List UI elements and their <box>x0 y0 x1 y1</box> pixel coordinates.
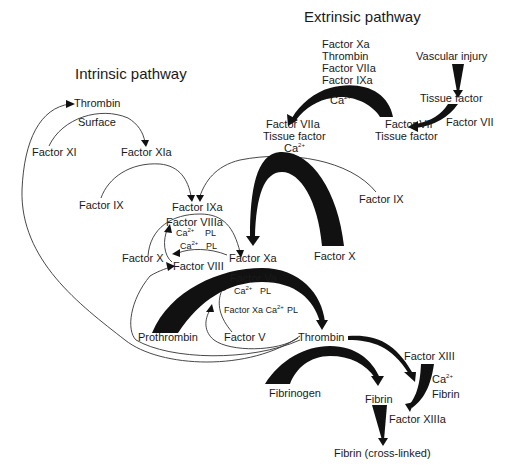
factor-viii-label: Factor VIII <box>173 260 224 272</box>
factor-xiiia-label: Factor XIIIa <box>389 413 447 425</box>
vascular-injury-arrow <box>452 64 464 92</box>
extrinsic-cofactor-list: Factor Xa Thrombin Factor VIIa Factor IX… <box>322 38 377 86</box>
xiii-ca-label: Ca2+ <box>432 373 453 385</box>
xiii-fibrin-label: Fibrin <box>432 388 460 400</box>
vascular-injury-label: Vascular injury <box>416 50 488 62</box>
thrombin-label: Thrombin <box>298 331 344 343</box>
svg-text:Thrombin: Thrombin <box>322 50 368 62</box>
factor-xi-label: Factor XI <box>32 146 77 158</box>
svg-text:Factor IXa: Factor IXa <box>322 74 374 86</box>
viii-to-viiia-arc <box>165 228 172 262</box>
xa-feedback-viii-arc <box>178 249 227 255</box>
x-to-xa-thick-arch <box>250 152 344 246</box>
svg-text:Factor VIIa: Factor VIIa <box>322 62 377 74</box>
factor-xa-label: Factor Xa <box>229 252 278 264</box>
factor-viia-ca-label: Ca2+ <box>284 142 305 154</box>
ix-to-ixa-arc <box>101 164 191 198</box>
coagulation-cascade-diagram: Extrinsic pathway Intrinsic pathway Fact… <box>0 0 506 476</box>
factor-ix-left-label: Factor IX <box>79 199 124 211</box>
factor-x-left-label: Factor X <box>122 252 164 264</box>
surface-label: Surface <box>78 116 116 128</box>
fibrinogen-label: Fibrinogen <box>269 387 321 399</box>
va-ca-label: Ca2+ <box>234 285 253 296</box>
arrowhead-icon <box>378 438 388 446</box>
arrowhead-icon <box>206 304 214 312</box>
xiii-to-xiiia-arrow <box>410 364 434 408</box>
va-pl-label: PL <box>260 286 271 296</box>
arrowhead-icon <box>172 249 180 257</box>
mid-pl-label: PL <box>206 241 217 251</box>
extrinsic-ca-label: Ca2+ <box>330 94 351 106</box>
factor-vii-input-label: Factor VII <box>446 116 494 128</box>
factor-viia-complex-line2: Tissue factor <box>263 130 326 142</box>
arrowhead-icon <box>316 320 328 330</box>
intrinsic-pathway-title: Intrinsic pathway <box>75 65 187 82</box>
factor-x-right-label: Factor X <box>314 250 356 262</box>
prothrombin-label: Prothrombin <box>138 331 198 343</box>
factor-vii-complex-line2: Tissue factor <box>375 130 438 142</box>
fibrin-to-crosslinked-wedge <box>372 405 387 440</box>
fibrinogen-to-fibrin-arch <box>265 346 380 384</box>
factor-ixa-label: Factor IXa <box>172 201 224 213</box>
arrowhead-icon <box>404 372 416 382</box>
fibrin-label: Fibrin <box>365 393 393 405</box>
arrowhead-icon <box>246 236 260 246</box>
factor-xa-ca-pl-label: Factor Xa Ca2+PL <box>224 304 298 315</box>
factor-viia-complex-line1: Factor VIIa <box>266 118 321 130</box>
factor-xia-label: Factor XIa <box>121 146 173 158</box>
factor-xiii-label: Factor XIII <box>404 350 455 362</box>
tissue-factor-label: Tissue factor <box>420 92 483 104</box>
factor-v-label: Factor V <box>224 331 266 343</box>
arrowhead-icon <box>371 376 384 386</box>
factor-vii-complex-line1: Factor VII <box>385 118 433 130</box>
factor-ix-right-label: Factor IX <box>359 193 404 205</box>
factor-va-label: Factor Va <box>230 272 278 284</box>
factor-viiia-label: Factor VIIIa <box>166 216 224 228</box>
thrombin-top-label: Thrombin <box>74 97 120 109</box>
viiia-pl-label: PL <box>205 228 216 238</box>
viiia-ca-label: Ca2+ <box>176 227 195 238</box>
fibrin-crosslinked-label: Fibrin (cross-linked) <box>334 447 431 459</box>
extrinsic-pathway-title: Extrinsic pathway <box>304 8 421 25</box>
svg-text:Factor Xa: Factor Xa <box>322 38 371 50</box>
